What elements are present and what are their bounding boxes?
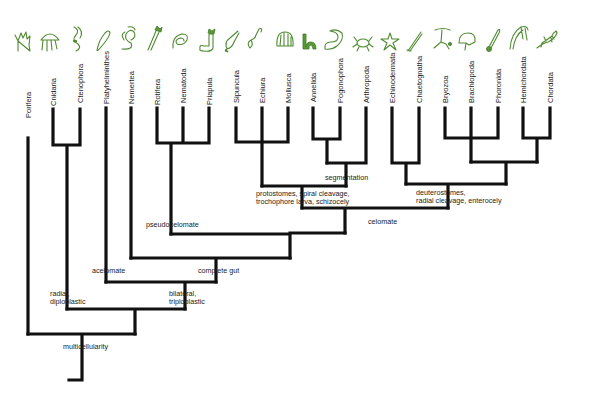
starfish-icon (381, 33, 399, 50)
bryozoan-icon (434, 29, 452, 50)
label-protostomes-line2: trochophore larva, schizocely (256, 197, 349, 206)
roundworm-icon (173, 34, 188, 48)
acorn-worm-icon (510, 26, 528, 49)
taxon-label-pogonophora: Pogonophora (336, 57, 345, 103)
branch-lophophorate-chordate-join (471, 162, 537, 184)
taxon-label-arthropoda: Arthropoda (362, 65, 371, 103)
branch-eumetazoa (67, 309, 185, 334)
branch-chordate-group (523, 108, 550, 162)
flatworm-icon (97, 31, 110, 51)
spoon-worm-icon (248, 28, 261, 48)
taxon-label-bryozoa: Bryozoa (441, 75, 450, 103)
cladogram: Porifera Cnidaria Ctenophora Platyhelmin… (0, 0, 592, 396)
sponge-icon (15, 32, 30, 51)
beard-worm-icon (325, 30, 343, 49)
salamander-icon (537, 31, 557, 48)
branch-pseudocoelomates (157, 108, 209, 234)
taxon-label-phoronida: Phoronida (494, 68, 503, 103)
horseshoe-worm-icon (487, 29, 500, 51)
taxon-label-platyhelminthes: Platyhelminthes (102, 51, 111, 104)
icon-row (15, 26, 557, 52)
taxon-label-brachiopoda: Brachiopoda (467, 60, 476, 103)
rotifer-icon (148, 26, 162, 50)
jellyfish-icon (41, 34, 59, 51)
branch-annelid-group (313, 108, 340, 163)
taxon-label-cnidaria: Cnidaria (49, 77, 58, 106)
branch-root (28, 334, 135, 380)
priapulid-icon (200, 29, 215, 51)
taxon-label-mollusca: Mollusca (284, 73, 293, 103)
taxon-label-sipuncula: Sipuncula (232, 69, 241, 103)
earthworm-icon (303, 34, 316, 49)
taxon-label-chaetognatha: Chaetognatha (415, 55, 424, 103)
label-bilateral-line2: triploblastic (169, 297, 205, 306)
taxon-label-priapula: Priapula (205, 77, 214, 105)
crab-icon (353, 37, 373, 51)
lamp-shell-icon (459, 33, 475, 50)
taxon-label-echiura: Echiura (258, 77, 267, 103)
branch-radiata (53, 109, 80, 309)
label-coelomate: celomate (368, 217, 397, 226)
taxon-label-ctenophora: Ctenophora (76, 63, 85, 103)
branch-mollusc-group (236, 108, 288, 186)
label-radial-line2: diploblastic (50, 297, 86, 306)
taxon-label-annelida: Annelida (309, 72, 318, 102)
taxon-label-rotifera: Rotifera (153, 78, 162, 105)
arrow-worm-icon (407, 32, 422, 51)
taxon-label-porifera: Porifera (24, 91, 33, 118)
shell-icon (277, 32, 293, 46)
branch-pseudocoelomate-join (171, 233, 345, 258)
branch-echinoderm-group (392, 108, 419, 184)
comb-jelly-icon (73, 27, 82, 51)
taxon-label-hemichordata: Hemichordata (519, 55, 528, 103)
label-multicellularity: multicellularity (63, 342, 109, 351)
taxon-label-chordata: Chordata (546, 71, 555, 103)
branches (28, 108, 550, 380)
label-acoelomate: acelomate (92, 266, 125, 275)
taxon-label-nemertea: Nemertea (127, 70, 136, 104)
label-complete-gut: complete gut (198, 266, 239, 275)
branch-lophophorates (445, 108, 498, 162)
node-labels: segmentation protostomes, spiral cleavag… (50, 173, 502, 351)
peanut-worm-icon (225, 31, 239, 52)
label-segmentation: segmentation (325, 173, 368, 182)
ribbon-worm-icon (122, 27, 135, 49)
taxon-label-nematoda: Nematoda (179, 68, 188, 103)
taxon-label-echinodermata: Echinodermata (388, 52, 397, 103)
label-pseudocoelomate: pseudocelomate (146, 220, 199, 229)
label-deuterostomes-line2: radial cleavage, enterocely (416, 196, 502, 205)
